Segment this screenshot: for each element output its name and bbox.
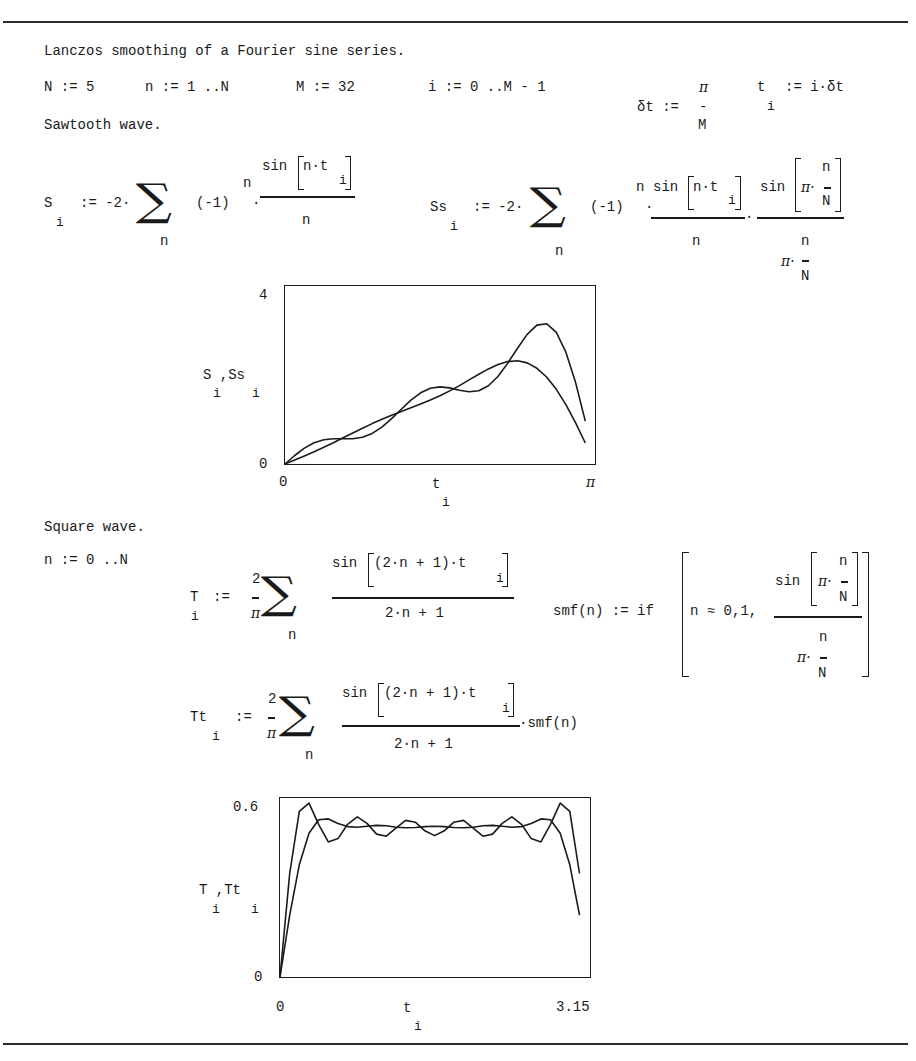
smf-num-n: n (839, 554, 847, 568)
Ss-sub: i (450, 220, 458, 233)
Ss-sigma-den-bar (802, 260, 809, 262)
Tt-num-arg: (2·n + 1)·t (384, 686, 476, 700)
T-coef-bar (252, 597, 259, 599)
smf-num-fn: sin (775, 574, 800, 588)
T-den: 2·n + 1 (385, 606, 444, 620)
Ss-sigma-num-pi: π· (801, 180, 815, 194)
Tt-coef-den: π (267, 726, 276, 740)
smf-bracket-right (862, 552, 869, 677)
y-axis-label: S ,Ss (203, 368, 245, 382)
Tt-sub: i (212, 730, 220, 743)
square-plot-area (280, 798, 590, 977)
smf-cond: n ≈ 0,1, (690, 604, 757, 618)
Ss-den: n (692, 234, 700, 248)
sigma-icon: ∑ (279, 691, 315, 735)
S-sub: i (56, 216, 64, 229)
S-dot: · (252, 196, 260, 210)
Ss-dot-2: · (745, 210, 753, 224)
def-i-range: i := 0 ..M - 1 (428, 80, 546, 94)
S-assign: := -2· (80, 196, 130, 210)
sigma-icon: ∑ (530, 182, 566, 226)
def-t-lhs: t (757, 80, 765, 94)
bottom-rule (3, 1043, 908, 1045)
Ss-assign: := -2· (473, 200, 523, 214)
Tt-fraction-bar (342, 725, 520, 727)
smf-den-bar (820, 657, 827, 659)
x-axis-label: t (432, 477, 440, 491)
square-heading: Square wave. (44, 520, 145, 534)
def-dt-lhs: δt := (637, 100, 679, 114)
y-tick-min: 0 (259, 457, 267, 471)
sigma-icon: ∑ (261, 571, 297, 615)
Tt-assign: := (235, 710, 252, 724)
Ss-sigma-den-n: n (801, 234, 809, 248)
T-assign: := (213, 590, 230, 604)
y-tick-min: 0 (254, 970, 262, 984)
y-tick-max: 0.6 (233, 800, 258, 814)
x-axis-label-sub: i (414, 1020, 422, 1033)
document-title: Lanczos smoothing of a Fourier sine seri… (44, 44, 405, 58)
def-M: M := 32 (296, 80, 355, 94)
T-num-fn: sin (332, 556, 357, 570)
Ss-sigma-num-fn: sin (760, 180, 785, 194)
T-fraction-bar (332, 597, 514, 599)
series-line-Tt (280, 819, 580, 977)
Ss-fraction-bar-1 (651, 217, 745, 219)
S-bracket-right (345, 156, 351, 190)
Tt-lhs: Tt (190, 710, 207, 724)
x-axis-label-sub: i (442, 496, 450, 509)
Tt-den: 2·n + 1 (394, 737, 453, 751)
smf-den-n: n (819, 630, 827, 644)
S-fraction-bar (260, 196, 355, 198)
top-rule (3, 21, 908, 23)
sawtooth-heading: Sawtooth wave. (44, 118, 162, 132)
def-dt-num: π (699, 80, 708, 94)
smf-den-N: N (818, 666, 826, 680)
y-tick-max: 4 (259, 288, 267, 302)
Ss-sigma-bracket-right (835, 158, 841, 212)
T-sigma-index: n (288, 628, 296, 642)
x-tick-min: 0 (276, 1000, 284, 1014)
smf-num-N: N (839, 590, 847, 604)
def-n-range: n := 1 ..N (145, 80, 229, 94)
T-coef-num: 2 (252, 572, 260, 586)
square-n-range: n := 0 ..N (44, 553, 128, 567)
x-tick-max: π (586, 475, 595, 489)
Ss-num-arg: n·t (693, 180, 718, 194)
Ss-bracket-right (735, 176, 741, 210)
T-num-arg: (2·n + 1)·t (374, 556, 466, 570)
smf-num-bracket-right (852, 552, 858, 606)
smf-den-pi: π· (797, 650, 811, 664)
T-bracket-right (502, 553, 508, 587)
S-num-arg: n·t (303, 159, 328, 173)
sigma-icon: ∑ (136, 178, 172, 222)
Ss-sigma-index: n (555, 244, 563, 258)
Tt-coef-bar (268, 717, 275, 719)
Tt-coef-num: 2 (268, 692, 276, 706)
S-sigma-index: n (160, 234, 168, 248)
Ss-num-fn: sin (653, 180, 678, 194)
smf-bracket-left (682, 552, 689, 677)
x-tick-max: 3.15 (556, 1000, 590, 1014)
Ss-lhs: Ss (430, 200, 447, 214)
T-coef-den: π (251, 606, 260, 620)
Tt-tail: ·smf(n) (519, 716, 578, 730)
def-dt-den: M (698, 118, 706, 132)
smf-lhs: smf(n) := if (553, 604, 654, 618)
S-lhs: S (44, 196, 52, 210)
Ss-dot: · (645, 200, 653, 214)
Ss-sigma-den-pi: π· (781, 254, 795, 268)
def-t-rhs: := i·δt (785, 80, 844, 94)
S-exponent: n (243, 176, 251, 190)
smf-fraction-bar (774, 616, 862, 618)
Ss-sigma-num-n: n (822, 160, 830, 174)
y-axis-label-subs: i i (212, 903, 259, 916)
series-line-S (285, 324, 585, 464)
x-axis-label: t (403, 1001, 411, 1015)
x-tick-min: 0 (279, 475, 287, 489)
smf-num-bar (841, 581, 848, 583)
Ss-factor: (-1) (590, 200, 624, 214)
series-line-Ss (285, 361, 585, 464)
Ss-sigma-num-bar (824, 187, 831, 189)
smf-num-bracket-left (811, 552, 817, 606)
